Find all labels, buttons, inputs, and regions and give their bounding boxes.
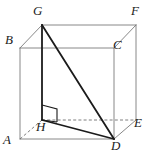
vertex-label-G: G bbox=[33, 4, 42, 17]
edge-B-G bbox=[20, 25, 42, 48]
vertex-label-C: C bbox=[113, 38, 122, 51]
geometry-figure: A B C D E F G H bbox=[0, 0, 153, 160]
vertex-label-E: E bbox=[134, 116, 142, 129]
edge-D-E bbox=[114, 120, 136, 139]
vertex-label-B: B bbox=[5, 33, 13, 46]
vertex-label-F: F bbox=[131, 4, 139, 17]
vertex-label-H: H bbox=[36, 120, 45, 133]
vertex-label-A: A bbox=[3, 133, 11, 146]
cuboid-svg bbox=[0, 0, 153, 160]
vertex-label-D: D bbox=[111, 139, 120, 152]
